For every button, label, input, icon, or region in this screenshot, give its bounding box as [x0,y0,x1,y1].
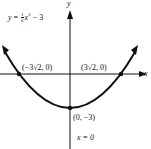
curve-arrow-left-icon [2,45,9,55]
vertex-label: (0, −3) [73,114,95,122]
equation-label: y = 16x2 − 3 [8,12,43,23]
eq-sign: = [14,13,19,22]
curve-arrow-right-icon [131,45,138,55]
root-right-label: (3√2, 0) [81,64,107,72]
symmetry-annotation: x = 0 [77,134,94,142]
x-axis-label: x [144,70,148,78]
eq-fraction: 16 [21,12,24,23]
eq-power: 2 [28,12,31,17]
eq-rest: − 3 [33,13,44,22]
root-left-point [17,72,21,76]
eq-lhs: y [8,13,12,22]
root-right-point [119,72,123,76]
y-axis-arrow-icon [67,10,73,19]
y-axis-label: y [67,0,71,8]
vertex-point [68,106,72,110]
root-left-label: (−3√2, 0) [22,64,52,72]
frac-den: 6 [21,18,24,23]
